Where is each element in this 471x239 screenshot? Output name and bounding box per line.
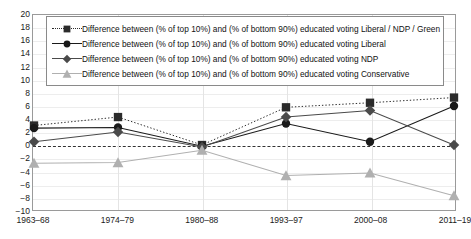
y-axis-tick-label: 4 bbox=[4, 115, 30, 123]
chart-legend: Difference between (% of top 10%) and (%… bbox=[46, 16, 444, 86]
legend-marker-square-icon bbox=[52, 23, 82, 35]
legend-marker-circle-icon bbox=[52, 38, 82, 50]
x-axis-tick-label: 1980–88 bbox=[185, 215, 218, 225]
series-1 bbox=[30, 102, 458, 151]
x-axis-tick-label: 1974–79 bbox=[101, 215, 134, 225]
y-axis-tick-label: 16 bbox=[4, 36, 30, 44]
y-axis-tick-label: −10 bbox=[4, 207, 30, 215]
y-axis-tick-label: 6 bbox=[4, 102, 30, 110]
x-axis-tick-label: 1993–97 bbox=[270, 215, 303, 225]
y-axis-tick-label: 0 bbox=[4, 141, 30, 149]
legend-item-2[interactable]: Difference between (% of top 10%) and (%… bbox=[52, 51, 438, 66]
legend-marker-triangle-icon bbox=[52, 68, 82, 80]
legend-label-2: Difference between (% of top 10%) and (%… bbox=[82, 53, 378, 65]
y-axis-tick-label: 2 bbox=[4, 128, 30, 136]
y-axis-tick-label: 14 bbox=[4, 49, 30, 57]
legend-label-0: Difference between (% of top 10%) and (%… bbox=[82, 23, 440, 35]
y-axis: 20181614121086420−2−4−6−8−10 bbox=[0, 0, 30, 239]
y-axis-tick-label: 12 bbox=[4, 63, 30, 71]
x-axis-tick-label: 1963–68 bbox=[16, 215, 49, 225]
legend-item-0[interactable]: Difference between (% of top 10%) and (%… bbox=[52, 21, 438, 36]
x-axis-tick-label: 2011–19 bbox=[439, 215, 471, 225]
series-2 bbox=[29, 105, 459, 152]
y-axis-tick-label: −4 bbox=[4, 168, 30, 176]
y-axis-tick-label: 10 bbox=[4, 76, 30, 84]
y-axis-tick-label: 8 bbox=[4, 89, 30, 97]
legend-marker-diamond-icon bbox=[52, 53, 82, 65]
y-axis-tick-label: −2 bbox=[4, 154, 30, 162]
series-3 bbox=[29, 145, 460, 200]
legend-item-1[interactable]: Difference between (% of top 10%) and (%… bbox=[52, 36, 438, 51]
y-axis-tick-label: −8 bbox=[4, 194, 30, 202]
legend-label-3: Difference between (% of top 10%) and (%… bbox=[82, 68, 409, 80]
y-axis-tick-label: 20 bbox=[4, 10, 30, 18]
y-axis-tick-label: −6 bbox=[4, 181, 30, 189]
series-0 bbox=[30, 93, 458, 149]
x-axis-tick-label: 2000–08 bbox=[354, 215, 387, 225]
legend-label-1: Difference between (% of top 10%) and (%… bbox=[82, 38, 386, 50]
x-axis: 1963–681974–791980–881993–972000–082011–… bbox=[32, 213, 456, 233]
y-axis-tick-label: 18 bbox=[4, 23, 30, 31]
legend-item-3[interactable]: Difference between (% of top 10%) and (%… bbox=[52, 66, 438, 81]
